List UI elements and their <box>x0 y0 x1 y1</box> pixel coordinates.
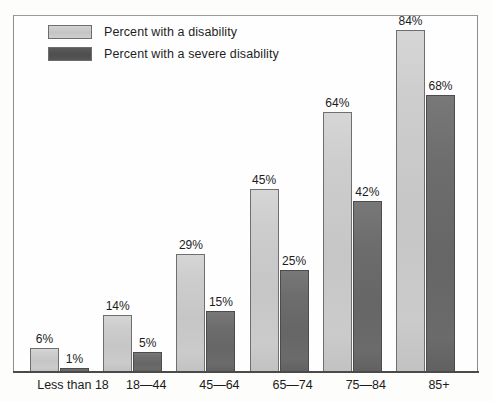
x-axis-label: 85+ <box>428 378 449 392</box>
bar-disability: 45% <box>250 189 279 372</box>
bar-value-label: 25% <box>282 254 306 268</box>
bar-value-label: 64% <box>325 96 349 110</box>
bar-value-label: 42% <box>355 185 379 199</box>
bar-value-label: 5% <box>139 336 156 350</box>
bar-value-label: 14% <box>106 299 130 313</box>
x-axis-label: 75—84 <box>346 378 386 392</box>
x-axis-label: 18—44 <box>126 378 166 392</box>
bar-chart: Percent with a disability Percent with a… <box>0 0 493 402</box>
bar-value-label: 45% <box>252 173 276 187</box>
bar-severe-disability: 25% <box>280 270 309 372</box>
bar-disability: 64% <box>323 112 352 372</box>
bar-severe-disability: 68% <box>426 95 455 372</box>
bar-disability: 84% <box>396 30 425 372</box>
x-axis-label: Less than 18 <box>37 378 109 392</box>
x-axis-label: 65—74 <box>272 378 312 392</box>
bar-severe-disability: 42% <box>353 201 382 372</box>
bar-severe-disability: 15% <box>206 311 235 372</box>
bar-value-label: 1% <box>66 352 83 366</box>
bar-value-label: 15% <box>209 295 233 309</box>
x-axis-label: 45—64 <box>199 378 239 392</box>
bar-value-label: 6% <box>36 332 53 346</box>
bar-disability: 29% <box>176 254 205 372</box>
bars-layer: 6%1%14%5%29%15%45%25%64%42%84%68% <box>0 0 493 402</box>
bar-value-label: 29% <box>179 238 203 252</box>
x-axis-line <box>13 371 479 373</box>
bar-disability: 14% <box>103 315 132 372</box>
bar-value-label: 84% <box>398 14 422 28</box>
bar-severe-disability: 5% <box>133 352 162 372</box>
bar-disability: 6% <box>30 348 59 372</box>
bar-value-label: 68% <box>428 79 452 93</box>
